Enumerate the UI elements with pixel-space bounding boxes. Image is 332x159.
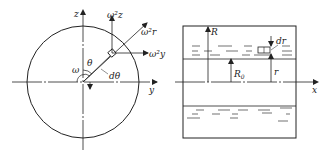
theta-label: θ [87, 58, 93, 68]
x-axis-label: x [312, 85, 317, 95]
omega2r-label: ω²r [141, 27, 157, 37]
R0-label-sub: 0 [241, 73, 245, 80]
R0-label: R0 [233, 69, 245, 80]
rotating-disk-figure: z y θ dθ ω ω²z ω²r ω²y [12, 9, 166, 150]
R-label: R [210, 27, 218, 37]
lower-liquid-hatching [187, 108, 292, 121]
upper-liquid-hatching [192, 46, 292, 55]
dtheta-leader [101, 69, 108, 74]
omega2y-label: ω²y [149, 49, 166, 59]
omega-arc [77, 74, 90, 82]
z-axis-label: z [73, 9, 79, 19]
omega-label: ω [72, 65, 80, 75]
r-label: r [274, 67, 279, 77]
dtheta-label: dθ [109, 71, 121, 81]
diagram-canvas: z y θ dθ ω ω²z ω²r ω²y [0, 0, 332, 159]
cylinder-section-figure: R R0 r dr x [175, 26, 318, 138]
y-axis-label: y [148, 85, 155, 95]
dr-label: dr [276, 36, 287, 46]
omega2z-label: ω²z [107, 10, 123, 20]
theta-arc [83, 70, 92, 74]
